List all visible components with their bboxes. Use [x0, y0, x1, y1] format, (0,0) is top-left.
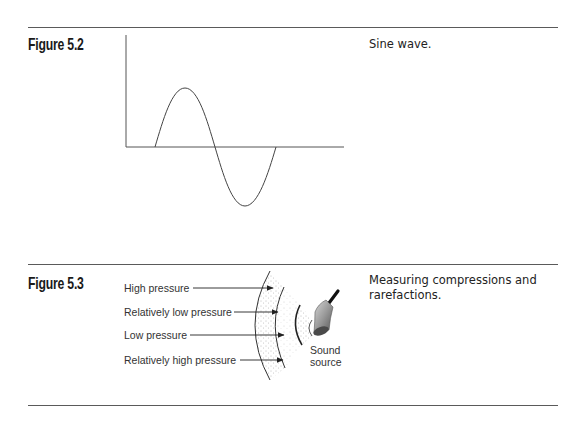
- label-relatively-high-pressure: Relatively high pressure: [124, 354, 236, 366]
- sound-pressure-diagram: High pressure Relatively low pressure Lo…: [0, 0, 583, 427]
- label-high-pressure: High pressure: [124, 282, 190, 294]
- sound-source-label-line2: source: [310, 356, 342, 368]
- bell-icon: [312, 291, 338, 337]
- label-low-pressure: Low pressure: [124, 329, 187, 341]
- label-relatively-low-pressure: Relatively low pressure: [124, 306, 232, 318]
- sound-source-label-line1: Sound: [310, 344, 341, 356]
